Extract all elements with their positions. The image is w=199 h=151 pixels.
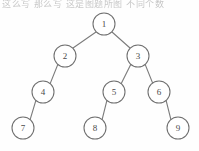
node-label-7: 7 xyxy=(21,123,26,133)
node-label-1: 1 xyxy=(102,19,107,29)
node-label-8: 8 xyxy=(93,123,98,133)
edge-4-7 xyxy=(30,100,36,120)
node-label-3: 3 xyxy=(136,51,141,61)
tree-node-3[interactable]: 3 xyxy=(127,45,149,67)
edge-1-2 xyxy=(73,32,96,48)
node-label-4: 4 xyxy=(41,87,46,97)
tree-node-8[interactable]: 8 xyxy=(84,117,106,139)
binary-tree-figure: 这么写 那么写 这是图题所图 不同个数 1 2 3 xyxy=(0,0,199,151)
edge-5-8 xyxy=(102,100,107,120)
tree-node-1[interactable]: 1 xyxy=(93,13,115,35)
edge-1-3 xyxy=(112,32,130,48)
tree-node-5[interactable]: 5 xyxy=(103,81,125,103)
edge-group xyxy=(30,32,171,120)
edge-2-4 xyxy=(50,64,58,84)
node-label-6: 6 xyxy=(157,87,162,97)
tree-node-2[interactable]: 2 xyxy=(54,45,76,67)
node-group: 1 2 3 4 5 6 xyxy=(12,13,189,139)
edge-6-9 xyxy=(166,100,171,120)
tree-node-7[interactable]: 7 xyxy=(12,117,34,139)
edge-3-5 xyxy=(121,64,131,84)
tree-node-4[interactable]: 4 xyxy=(32,81,54,103)
node-label-2: 2 xyxy=(63,51,68,61)
tree-node-6[interactable]: 6 xyxy=(148,81,170,103)
node-label-9: 9 xyxy=(176,123,181,133)
edge-3-6 xyxy=(145,64,153,84)
node-label-5: 5 xyxy=(112,87,117,97)
tree-canvas: 1 2 3 4 5 6 xyxy=(0,0,199,151)
tree-node-9[interactable]: 9 xyxy=(167,117,189,139)
